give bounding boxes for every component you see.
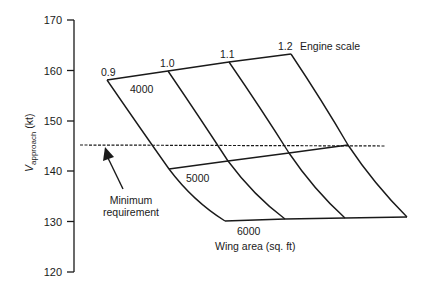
engine-scale-label-1.2: 1.2 bbox=[278, 40, 293, 52]
x-axis-title: Wing area (sq. ft) bbox=[215, 240, 296, 252]
wing-area-5000-line bbox=[169, 145, 348, 169]
minimum-requirement-arrow bbox=[103, 147, 123, 189]
minimum-requirement-label-line1: Minimum bbox=[110, 194, 153, 206]
y-tick-label: 150 bbox=[44, 115, 62, 127]
engine-scale-title: Engine scale bbox=[300, 40, 360, 52]
y-axis-title-unit: (kt) bbox=[23, 114, 35, 132]
wing-area-label-5000: 5000 bbox=[186, 172, 210, 184]
engine-scale-1.2-line bbox=[291, 54, 407, 217]
engine-scale-label-1.0: 1.0 bbox=[160, 57, 175, 69]
y-axis-title: Vapproach (kt) bbox=[23, 114, 38, 172]
wing-area-label-4000: 4000 bbox=[130, 83, 154, 95]
carpet-plot: 170 160 150 140 130 120 Vapproach (kt) M… bbox=[0, 0, 430, 293]
wing-area-4000-line bbox=[107, 54, 291, 80]
y-tick-label: 130 bbox=[44, 216, 62, 228]
engine-scale-label-1.1: 1.1 bbox=[220, 48, 235, 60]
y-tick-label: 120 bbox=[44, 266, 62, 278]
y-tick-label: 160 bbox=[44, 65, 62, 77]
engine-scale-label-0.9: 0.9 bbox=[101, 66, 116, 78]
minimum-requirement-label-line2: requirement bbox=[103, 206, 159, 218]
engine-scale-1.1-line bbox=[229, 62, 345, 218]
wing-area-label-6000: 6000 bbox=[237, 225, 261, 237]
y-tick-label: 140 bbox=[44, 165, 62, 177]
y-axis: 170 160 150 140 130 120 Vapproach (kt) bbox=[23, 14, 74, 278]
y-axis-title-sub: approach bbox=[29, 132, 38, 165]
y-tick-label: 170 bbox=[44, 14, 62, 26]
wing-area-6000-line bbox=[225, 217, 407, 221]
